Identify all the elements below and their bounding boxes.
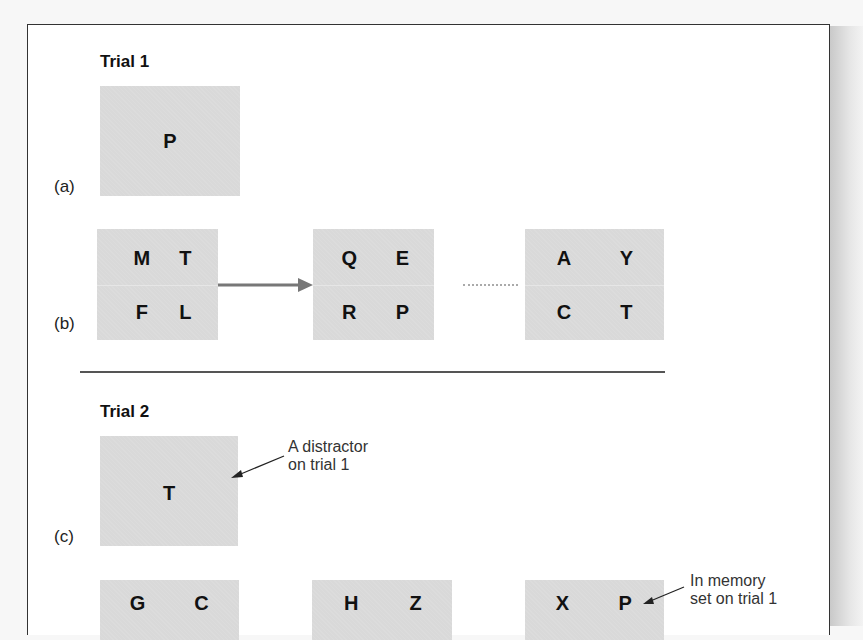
letter: M [133, 246, 150, 269]
panel-d-frame-2: H Z [312, 580, 452, 640]
letter: T [179, 246, 191, 269]
memory-set-annotation: In memory set on trial 1 [690, 572, 777, 608]
panel-b-frame-3: A Y C T [525, 229, 664, 340]
annotation-arrow-icon [640, 584, 688, 608]
panel-a-target-box: P [100, 86, 240, 196]
panel-b-frame-1: M T F L [97, 229, 218, 340]
annotation-line: In memory [690, 572, 777, 590]
letter: C [557, 301, 571, 324]
letter: Y [620, 246, 633, 269]
page-shadow [830, 26, 863, 626]
letter: E [396, 246, 409, 269]
letter: P [618, 591, 631, 614]
distractor-annotation: A distractor on trial 1 [288, 438, 368, 474]
letter: H [344, 591, 358, 614]
letter: P [396, 301, 409, 324]
annotation-line: set on trial 1 [690, 590, 777, 608]
letter: L [179, 301, 191, 324]
trial-separator [80, 371, 665, 373]
target-letter: T [163, 482, 175, 505]
letter: T [620, 301, 632, 324]
letter: G [130, 591, 146, 614]
panel-b-label: (b) [54, 314, 75, 334]
letter: Z [409, 591, 421, 614]
annotation-arrow-icon [228, 452, 288, 482]
trial2-title: Trial 2 [100, 402, 149, 422]
letter: Q [342, 246, 358, 269]
letter: C [194, 591, 208, 614]
ellipsis-dots [463, 284, 518, 286]
trial1-title: Trial 1 [100, 52, 149, 72]
letter: A [557, 246, 571, 269]
panel-b-frame-2: Q E R P [313, 229, 434, 340]
letter: F [136, 301, 148, 324]
panel-c-target-box: T [100, 436, 238, 546]
letter: R [342, 301, 356, 324]
panel-c-label: (c) [54, 527, 74, 547]
panel-d-frame-1: G C [100, 580, 239, 640]
target-letter: P [163, 130, 176, 153]
panel-a-label: (a) [54, 177, 75, 197]
letter: X [556, 591, 569, 614]
arrow-right-icon [216, 276, 316, 294]
annotation-line: on trial 1 [288, 456, 368, 474]
annotation-line: A distractor [288, 438, 368, 456]
